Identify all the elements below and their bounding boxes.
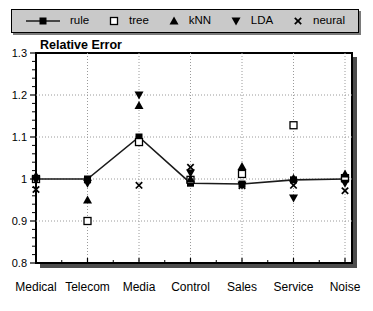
y-tick-label: 1.1 [12, 131, 27, 143]
x-category-label: Telecom [65, 280, 110, 294]
open-square-marker [290, 122, 297, 129]
y-tick-label: 1.3 [12, 47, 27, 59]
filled-square-marker [40, 18, 47, 25]
open-square-marker [84, 218, 91, 225]
open-square-marker [136, 139, 143, 146]
figure: 0.80.911.11.21.3MedicalTelecomMediaContr… [0, 0, 373, 311]
open-square-icon [108, 15, 120, 27]
filled-square-icon [25, 15, 61, 27]
x-cross-icon [292, 15, 304, 27]
y-tick-label: 0.9 [12, 215, 27, 227]
y-tick-label: 1 [21, 173, 27, 185]
legend-item-rule: rule [25, 15, 89, 27]
x-category-label: Sales [227, 280, 257, 294]
open-square-marker [239, 170, 246, 177]
legend-item-LDA: LDA [230, 15, 273, 27]
triangle-down-marker [231, 18, 240, 26]
legend-item-neural: neural [292, 15, 345, 27]
chart-title: Relative Error [40, 38, 122, 52]
legend-label-neural: neural [313, 15, 345, 27]
open-square-marker [111, 18, 118, 25]
legend-item-tree: tree [108, 15, 149, 27]
chart-legend: ruletreekNNLDAneural [11, 9, 359, 33]
x-category-label: Noise [330, 280, 361, 294]
triangle-up-marker [169, 17, 178, 25]
y-tick-label: 1.2 [12, 89, 27, 101]
legend-label-rule: rule [70, 15, 89, 27]
chart-plot-area: 0.80.911.11.21.3MedicalTelecomMediaContr… [0, 0, 373, 311]
legend-label-tree: tree [129, 15, 149, 27]
x-category-label: Media [123, 280, 156, 294]
x-category-label: Service [273, 280, 313, 294]
legend-item-kNN: kNN [168, 15, 211, 27]
x-category-label: Control [171, 280, 210, 294]
legend-label-LDA: LDA [251, 15, 273, 27]
plot-box [36, 53, 352, 263]
filled-triangle-down-icon [230, 15, 242, 27]
legend-label-kNN: kNN [189, 15, 211, 27]
x-category-label: Medical [15, 280, 56, 294]
y-tick-label: 0.8 [12, 257, 27, 269]
filled-triangle-up-icon [168, 15, 180, 27]
